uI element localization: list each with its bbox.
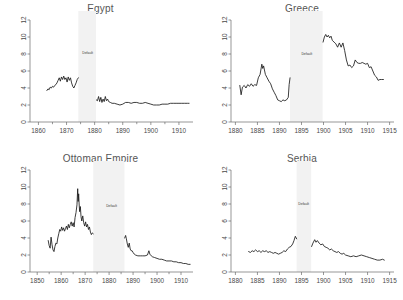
default-period-band xyxy=(93,161,124,272)
default-annotation-label: Default xyxy=(106,204,117,208)
x-tick-label: 1850 xyxy=(30,277,45,284)
default-period-band xyxy=(297,161,312,272)
plot-area-greece: 0246810121880188518901895190019051910191… xyxy=(201,0,402,150)
axis-lines xyxy=(231,170,394,272)
y-tick-label: 12 xyxy=(20,16,27,24)
y-tick-label: 2 xyxy=(221,103,228,107)
x-tick-label: 1905 xyxy=(338,277,353,284)
x-tick-label: 1905 xyxy=(338,127,353,134)
y-tick-label: 4 xyxy=(20,86,27,90)
panel-serbia: Serbia 024681012188018851890189519001905… xyxy=(201,150,403,300)
x-tick-label: 1915 xyxy=(382,277,397,284)
data-series-line xyxy=(312,240,385,260)
x-tick-label: 1860 xyxy=(54,277,69,284)
x-tick-label: 1880 xyxy=(88,127,103,134)
x-tick-label: 1870 xyxy=(78,277,93,284)
y-tick-label: 8 xyxy=(20,202,27,206)
chart-svg: 0246810121880188518901895190019051910191… xyxy=(201,150,402,300)
plot-area-ottoman: 0246810121850186018701880189019001910Def… xyxy=(0,150,201,300)
y-tick-label: 0 xyxy=(20,120,27,124)
y-tick-label: 2 xyxy=(221,253,228,257)
x-tick-label: 1880 xyxy=(228,127,243,134)
y-tick-label: 4 xyxy=(20,236,27,240)
chart-svg: 024681012186018701880189019001910Default xyxy=(0,0,201,150)
x-tick-label: 1900 xyxy=(150,277,165,284)
x-tick-label: 1895 xyxy=(294,127,309,134)
y-tick-label: 4 xyxy=(221,236,228,240)
data-series-line xyxy=(249,236,297,254)
default-period-band xyxy=(78,11,96,122)
y-tick-label: 2 xyxy=(20,103,27,107)
x-tick-label: 1885 xyxy=(250,127,265,134)
y-tick-label: 2 xyxy=(20,253,27,257)
data-series-line xyxy=(240,64,290,101)
data-series-line xyxy=(96,97,189,106)
data-series-line xyxy=(323,34,383,80)
y-tick-label: 0 xyxy=(20,270,27,274)
x-tick-label: 1895 xyxy=(294,277,309,284)
x-tick-label: 1890 xyxy=(116,127,131,134)
y-tick-label: 8 xyxy=(221,52,228,56)
x-tick-label: 1885 xyxy=(250,277,265,284)
y-tick-label: 10 xyxy=(20,33,27,41)
y-tick-label: 8 xyxy=(221,202,228,206)
y-tick-label: 8 xyxy=(20,52,27,56)
panel-egypt: Egypt 024681012186018701880189019001910D… xyxy=(0,0,201,150)
y-tick-label: 4 xyxy=(221,86,228,90)
plot-area-egypt: 024681012186018701880189019001910Default xyxy=(0,0,201,150)
x-tick-label: 1900 xyxy=(316,277,331,284)
y-tick-label: 6 xyxy=(221,69,228,73)
x-tick-label: 1910 xyxy=(360,277,375,284)
chart-svg: 0246810121880188518901895190019051910191… xyxy=(201,0,402,150)
data-series-line xyxy=(125,235,190,264)
x-tick-label: 1870 xyxy=(59,127,74,134)
panel-ottoman: Ottoman Empire 0246810121850186018701880… xyxy=(0,150,201,300)
chart-grid: Egypt 024681012186018701880189019001910D… xyxy=(0,0,403,300)
y-tick-label: 10 xyxy=(221,33,228,41)
x-tick-label: 1910 xyxy=(172,127,187,134)
y-tick-label: 12 xyxy=(20,166,27,174)
x-tick-label: 1880 xyxy=(228,277,243,284)
chart-svg: 0246810121850186018701880189019001910Def… xyxy=(0,150,201,300)
y-tick-label: 6 xyxy=(20,69,27,73)
x-tick-label: 1890 xyxy=(272,277,287,284)
y-tick-label: 6 xyxy=(221,219,228,223)
data-series-line xyxy=(48,189,93,252)
x-tick-label: 1915 xyxy=(382,127,397,134)
y-tick-label: 12 xyxy=(221,16,228,24)
axis-lines xyxy=(30,20,193,122)
x-tick-label: 1900 xyxy=(316,127,331,134)
x-tick-label: 1860 xyxy=(31,127,46,134)
default-annotation-label: Default xyxy=(301,52,312,56)
x-tick-label: 1890 xyxy=(272,127,287,134)
y-tick-label: 0 xyxy=(221,120,228,124)
x-tick-label: 1880 xyxy=(102,277,117,284)
y-tick-label: 6 xyxy=(20,219,27,223)
panel-greece: Greece 024681012188018851890189519001905… xyxy=(201,0,403,150)
plot-area-serbia: 0246810121880188518901895190019051910191… xyxy=(201,150,402,300)
y-tick-label: 0 xyxy=(221,270,228,274)
x-tick-label: 1910 xyxy=(174,277,189,284)
data-series-line xyxy=(47,76,78,90)
default-annotation-label: Default xyxy=(298,202,309,206)
default-annotation-label: Default xyxy=(82,51,93,55)
x-tick-label: 1900 xyxy=(144,127,159,134)
default-period-band xyxy=(290,11,323,122)
y-tick-label: 12 xyxy=(221,166,228,174)
x-tick-label: 1910 xyxy=(360,127,375,134)
y-tick-label: 10 xyxy=(20,183,27,191)
x-tick-label: 1890 xyxy=(126,277,141,284)
y-tick-label: 10 xyxy=(221,183,228,191)
